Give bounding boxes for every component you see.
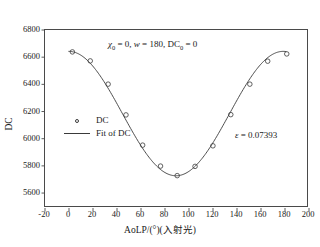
x-tick-label: 0 [66, 210, 70, 219]
x-tick-label: 120 [206, 210, 219, 219]
x-axis-title: AoLP/(°)(入射光) [0, 225, 320, 235]
w-value: = 180, [140, 39, 168, 49]
y-tick-label: 6600 [14, 52, 40, 61]
figure-container: χ0 = 0, w = 180, DC0 = 0 ε = 0.07393 DC … [0, 0, 320, 247]
x-tick-label: 100 [182, 210, 195, 219]
dc-value: = 0 [183, 39, 197, 49]
y-tick-label: 5600 [14, 188, 40, 197]
x-tick-label: -20 [38, 210, 49, 219]
chi-value: = 0, [115, 39, 134, 49]
y-tick-label: 5800 [14, 161, 40, 170]
y-tick-label: 6200 [14, 106, 40, 115]
parameter-annotation: χ0 = 0, w = 180, DC0 = 0 [108, 40, 197, 51]
x-tick-label: 200 [302, 210, 315, 219]
x-tick-label: 180 [278, 210, 291, 219]
dc-symbol: DC [167, 39, 180, 49]
solid-line-icon [62, 133, 92, 134]
legend-label-dc: DC [92, 116, 109, 125]
open-circle-marker-icon [62, 119, 92, 123]
epsilon-annotation: ε = 0.07393 [235, 131, 277, 140]
chart-legend: DC Fit of DC [62, 114, 131, 140]
x-tick-label: 80 [160, 210, 169, 219]
x-tick-label: 20 [88, 210, 97, 219]
epsilon-value: = 0.07393 [239, 130, 278, 140]
y-axis-title: DC [4, 117, 14, 130]
legend-label-fit-of-dc: Fit of DC [92, 129, 131, 138]
x-tick-label: 60 [136, 210, 145, 219]
y-tick-label: 6800 [14, 25, 40, 34]
x-tick-label: 160 [254, 210, 267, 219]
y-tick-label: 6000 [14, 133, 40, 142]
y-tick-label: 6400 [14, 79, 40, 88]
x-tick-label: 140 [230, 210, 243, 219]
legend-item-fit-of-dc: Fit of DC [62, 127, 131, 140]
legend-item-dc: DC [62, 114, 131, 127]
x-tick-label: 40 [112, 210, 121, 219]
